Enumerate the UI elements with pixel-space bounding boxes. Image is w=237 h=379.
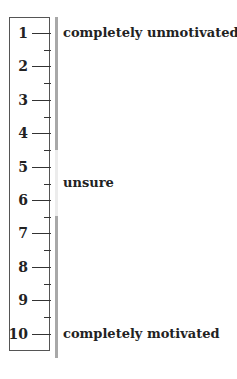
minor-tick — [44, 217, 51, 218]
scale-bar-upper — [55, 17, 58, 150]
tick-number: 7 — [18, 224, 28, 242]
major-tick — [32, 200, 51, 201]
label-unsure: unsure — [63, 175, 114, 191]
label-completely-motivated: completely motivated — [63, 326, 220, 342]
major-tick — [32, 66, 51, 67]
minor-tick — [44, 150, 51, 151]
major-tick — [32, 267, 51, 268]
tick-number: 4 — [18, 124, 28, 142]
tick-number: 10 — [9, 325, 28, 343]
major-tick — [32, 133, 51, 134]
major-tick — [32, 33, 51, 34]
major-tick — [32, 233, 51, 234]
minor-tick — [44, 317, 51, 318]
major-tick — [32, 167, 51, 168]
tick-number: 9 — [18, 291, 28, 309]
label-completely-unmotivated: completely unmotivated — [63, 25, 237, 41]
major-tick — [32, 100, 51, 101]
tick-number: 2 — [18, 57, 28, 75]
minor-tick — [44, 117, 51, 118]
tick-number: 6 — [18, 191, 28, 209]
minor-tick — [44, 284, 51, 285]
minor-tick — [44, 250, 51, 251]
tick-number: 8 — [18, 258, 28, 276]
minor-tick — [44, 184, 51, 185]
scale-bar-lower — [55, 216, 58, 358]
scale-bar-middle — [55, 150, 58, 216]
tick-number: 5 — [18, 158, 28, 176]
tick-number: 3 — [18, 91, 28, 109]
major-tick — [32, 300, 51, 301]
minor-tick — [44, 83, 51, 84]
minor-tick — [44, 50, 51, 51]
major-tick — [32, 334, 51, 335]
tick-number: 1 — [18, 24, 28, 42]
